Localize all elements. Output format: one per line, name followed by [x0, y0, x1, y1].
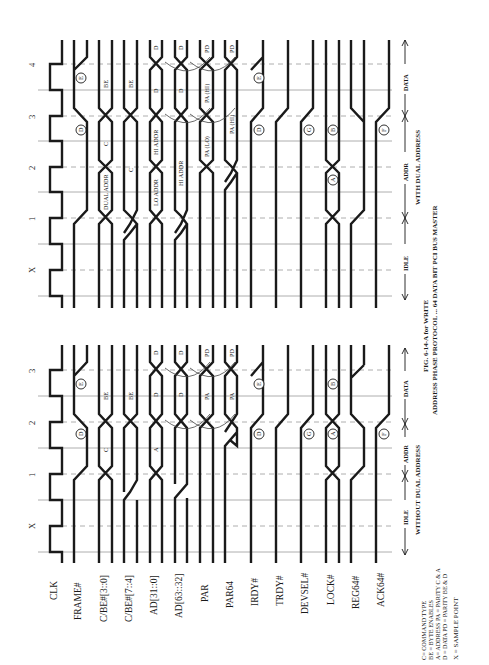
label-ad-hi: AD[63::32]	[174, 574, 184, 618]
lock-waveform	[326, 345, 339, 563]
clock-label-2: 2	[27, 166, 37, 170]
captions: WITHOUT DUAL ADDRESS WITH DUAL ADDRESS F…	[414, 130, 439, 535]
clock-label-2: 2	[27, 421, 37, 425]
label-clk: CLK	[49, 581, 59, 600]
cbe-lo-waveform	[99, 345, 112, 563]
label-devsel: DEVSEL#	[300, 573, 310, 614]
bus-value: PA	[203, 392, 210, 400]
clock-label-1: 1	[27, 473, 37, 477]
bus-value: DUAL ADDR	[102, 173, 109, 210]
phase-idle: IDLE	[402, 256, 409, 271]
label-cbe-hi: C/BE#[7::4]	[124, 575, 134, 622]
devsel-waveform	[301, 40, 313, 308]
ad-lo-waveform	[150, 345, 162, 563]
bus-value: D	[152, 88, 159, 93]
label-trdy: TRDY#	[275, 575, 285, 606]
bus-value: BE	[102, 392, 109, 400]
label-ack64: ACK64#	[376, 572, 386, 607]
clock-label-4: 4	[27, 62, 37, 67]
bus-value: PA (LO)	[203, 136, 211, 157]
svg-text:E: E	[255, 382, 262, 386]
bus-value: D	[177, 350, 184, 355]
marker-d: D	[76, 429, 86, 439]
label-lock: LOCK#	[326, 574, 336, 605]
svg-text:F: F	[380, 432, 387, 436]
marker-e: E	[76, 379, 86, 389]
bus-value: PD	[203, 349, 210, 357]
label-ad-lo: AD[31::0]	[149, 575, 159, 615]
marker-b: B	[328, 125, 338, 135]
legend-line-1: C= COMMAND TYPE	[420, 601, 427, 660]
timing-diagram: CLK FRAME# C/BE#[3::0] C/BE#[7::4] AD[31…	[0, 0, 489, 665]
marker-a: A	[328, 429, 338, 439]
label-cbe-lo: C/BE#[3::0]	[99, 575, 109, 622]
svg-text:D: D	[77, 127, 84, 132]
bus-value: BE	[127, 80, 134, 88]
svg-text:A: A	[329, 177, 336, 182]
par-waveform	[200, 345, 213, 563]
bus-value: HI ADDR	[177, 160, 184, 186]
lock-waveform	[326, 40, 339, 308]
marker-b: B	[328, 379, 338, 389]
legend-line-4: D = DATA PD = PARITY BE & D	[441, 573, 448, 660]
phase-idle: IDLE	[402, 510, 409, 525]
bus-value: BE	[102, 80, 109, 88]
frame-waveform	[74, 345, 87, 563]
bus-value: BE	[127, 392, 134, 400]
svg-text:D: D	[77, 431, 84, 436]
irdy-waveform	[251, 345, 263, 563]
svg-text:F: F	[380, 128, 387, 132]
marker-e: E	[254, 73, 264, 83]
ack64-waveform	[376, 345, 389, 563]
par64-waveform	[225, 40, 237, 308]
svg-text:E: E	[77, 76, 84, 80]
marker-g: G	[304, 429, 314, 439]
par-waveform	[200, 40, 213, 308]
marker-f: F	[379, 125, 389, 135]
phase-addr: ADDR	[402, 445, 409, 463]
par64-waveform	[225, 345, 237, 563]
label-frame: FRAME#	[73, 582, 83, 620]
legend: C= COMMAND TYPE BE = BYTE ENABLES A= ADD…	[420, 568, 460, 660]
reg64-waveform	[351, 40, 364, 308]
svg-text:G: G	[305, 127, 312, 132]
svg-text:E: E	[255, 76, 262, 80]
clock-label-x: X	[27, 267, 37, 273]
panel-without-dual-address: X 1 2 3 C BE BE A D	[27, 345, 410, 563]
ad-lo-waveform	[150, 40, 162, 308]
devsel-waveform	[301, 345, 313, 563]
phase-indicator: IDLE ADDR DATA	[400, 348, 410, 555]
ack64-waveform	[376, 40, 389, 308]
bus-value: PD	[228, 45, 235, 53]
panel-title-without-dual: WITHOUT DUAL ADDRESS	[414, 445, 422, 535]
label-reg64: REG64#	[351, 576, 361, 610]
panel-title-with-dual: WITH DUAL ADDRESS	[414, 130, 422, 205]
bus-value: PD	[228, 349, 235, 357]
bus-value: HI ADDR	[152, 129, 159, 155]
bus-value: PA (HI)	[228, 115, 236, 134]
label-irdy: IRDY#	[250, 578, 260, 606]
phase-addr: ADDR	[402, 163, 409, 181]
svg-text:A: A	[329, 431, 336, 436]
clk-waveform	[50, 345, 62, 563]
legend-line-2: BE = BYTE ENABLES	[427, 599, 434, 660]
panel-with-dual-address: X 1 2 3 4 DUAL ADDR C BE	[27, 40, 410, 308]
svg-text:D: D	[255, 127, 262, 132]
legend-sample-point: X = SAMPLE POINT	[452, 597, 460, 660]
phase-indicator: IDLE ADDR DATA	[400, 40, 410, 300]
svg-text:D: D	[255, 431, 262, 436]
clock-label-1: 1	[27, 217, 37, 221]
marker-a: A	[328, 175, 338, 185]
bus-value: A	[152, 447, 159, 452]
svg-text:B: B	[329, 382, 336, 386]
trdy-waveform	[276, 40, 288, 308]
clock-label-x: X	[27, 523, 37, 529]
bus-value: C	[102, 448, 109, 452]
marker-f: F	[379, 429, 389, 439]
clock-label-3: 3	[27, 369, 37, 373]
ad-hi-waveform	[175, 345, 187, 563]
marker-d: D	[254, 125, 264, 135]
marker-g: G	[304, 125, 314, 135]
clock-label-3: 3	[27, 115, 37, 119]
clk-waveform	[50, 40, 62, 308]
